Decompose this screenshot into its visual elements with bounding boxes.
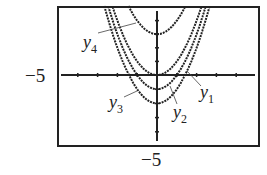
window-frame <box>58 7 259 146</box>
y2-label: y2 <box>171 102 187 126</box>
y1-label: y1 <box>198 82 214 106</box>
y3-label: y3 <box>107 92 123 116</box>
y-min-label: −5 <box>141 149 161 170</box>
graph-figure: −5 −5 y4 y3 y2 y1 <box>0 0 267 175</box>
y4-label: y4 <box>81 32 97 56</box>
x-min-label: −5 <box>25 65 45 86</box>
parabola-plot: −5 −5 y4 y3 y2 y1 <box>0 0 267 175</box>
